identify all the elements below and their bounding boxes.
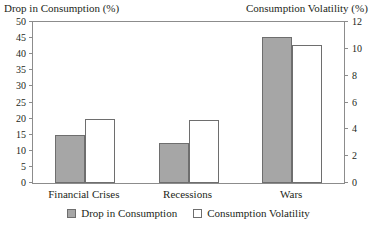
left-tick-mark — [29, 118, 33, 119]
right-tick-mark — [344, 102, 348, 103]
left-tick-label: 5 — [21, 162, 26, 172]
chart-legend: Drop in ConsumptionConsumption Volatilit… — [0, 207, 377, 219]
left-tick-mark — [29, 134, 33, 135]
right-tick-label: 12 — [352, 17, 362, 27]
legend-swatch-icon — [193, 209, 202, 218]
right-tick-mark — [344, 155, 348, 156]
left-tick-label: 15 — [16, 130, 26, 140]
left-tick-label: 30 — [16, 81, 26, 91]
legend-swatch-icon — [67, 209, 76, 218]
left-tick-mark — [29, 21, 33, 22]
left-tick-mark — [29, 53, 33, 54]
category-label: Wars — [280, 188, 302, 200]
category-label: Recessions — [163, 188, 212, 200]
bar-drop-in-consumption — [262, 37, 292, 184]
right-tick-label: 6 — [352, 98, 357, 108]
legend-item[interactable]: Consumption Volatility — [193, 207, 310, 219]
plot-inner: 05101520253035404550 024681012 — [33, 22, 344, 183]
left-tick-label: 50 — [16, 17, 26, 27]
left-tick-label: 40 — [16, 49, 26, 59]
right-tick-mark — [344, 21, 348, 22]
left-tick-label: 45 — [16, 33, 26, 43]
legend-label: Drop in Consumption — [81, 207, 177, 219]
chart-figure: Drop in Consumption (%) Consumption Vola… — [0, 0, 377, 229]
right-axis-title: Consumption Volatility (%) — [246, 2, 368, 14]
left-tick-label: 10 — [16, 146, 26, 156]
left-tick-mark — [29, 150, 33, 151]
legend-label: Consumption Volatility — [207, 207, 310, 219]
right-tick-mark — [344, 75, 348, 76]
left-tick-label: 20 — [16, 114, 26, 124]
right-tick-label: 4 — [352, 124, 357, 134]
left-tick-mark — [29, 69, 33, 70]
right-tick-label: 8 — [352, 71, 357, 81]
left-tick-label: 35 — [16, 65, 26, 75]
left-tick-label: 25 — [16, 98, 26, 108]
legend-item[interactable]: Drop in Consumption — [67, 207, 177, 219]
bar-drop-in-consumption — [159, 143, 189, 183]
category-label: Financial Crises — [48, 188, 119, 200]
right-tick-label: 10 — [352, 44, 362, 54]
left-tick-mark — [29, 182, 33, 183]
left-axis-title: Drop in Consumption (%) — [4, 2, 119, 14]
left-tick-mark — [29, 102, 33, 103]
left-tick-mark — [29, 166, 33, 167]
bar-drop-in-consumption — [55, 135, 85, 183]
right-tick-mark — [344, 182, 348, 183]
bar-consumption-volatility — [85, 119, 115, 183]
left-tick-mark — [29, 85, 33, 86]
left-tick-label: 0 — [21, 178, 26, 188]
bar-consumption-volatility — [292, 45, 322, 183]
plot-area: 05101520253035404550 024681012 — [32, 21, 345, 184]
right-tick-label: 0 — [352, 178, 357, 188]
right-tick-label: 2 — [352, 151, 357, 161]
right-tick-mark — [344, 48, 348, 49]
right-tick-mark — [344, 128, 348, 129]
left-tick-mark — [29, 37, 33, 38]
bar-consumption-volatility — [189, 120, 219, 183]
